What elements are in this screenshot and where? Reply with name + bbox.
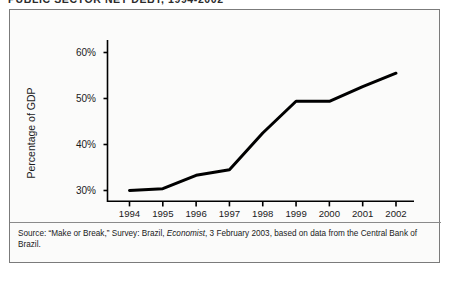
chart-plot-area: Percentage of GDP 60% 50% 40% 30% 199419… [10, 10, 441, 222]
y-tick-label: 40% [76, 139, 96, 150]
page-title: PUBLIC SECTOR NET DEBT, 1994-2002 [8, 0, 428, 7]
source-publication: Economist [167, 229, 205, 238]
y-tick-label: 50% [76, 93, 96, 104]
source-prefix: Source: “Make or Break,” Survey: Brazil, [18, 229, 167, 238]
figure-root: PUBLIC SECTOR NET DEBT, 1994-2002 Percen… [0, 0, 450, 281]
y-axis-label: Percentage of GDP [25, 87, 37, 178]
y-tick-label: 60% [76, 47, 96, 58]
x-tick-label: 1998 [252, 208, 273, 219]
x-tick-label: 1999 [285, 208, 306, 219]
x-axis-tick-labels: 199419951996199719981999200020012002 [119, 208, 407, 219]
line-chart-svg: Percentage of GDP 60% 50% 40% 30% 199419… [10, 10, 441, 222]
source-divider [10, 222, 441, 223]
source-note: Source: “Make or Break,” Survey: Brazil,… [18, 228, 433, 251]
x-tick-label: 1996 [185, 208, 206, 219]
x-tick-label: 1994 [119, 208, 141, 219]
x-tick-label: 2002 [385, 208, 406, 219]
x-tick-label: 2001 [352, 208, 373, 219]
data-series-line [130, 73, 397, 190]
x-tick-label: 2000 [319, 208, 340, 219]
x-tick-label: 1995 [152, 208, 173, 219]
y-axis-tick-labels: 60% 50% 40% 30% [76, 47, 96, 196]
x-tick-label: 1997 [219, 208, 240, 219]
figure-panel: Percentage of GDP 60% 50% 40% 30% 199419… [9, 9, 440, 263]
y-tick-label: 30% [76, 185, 96, 196]
